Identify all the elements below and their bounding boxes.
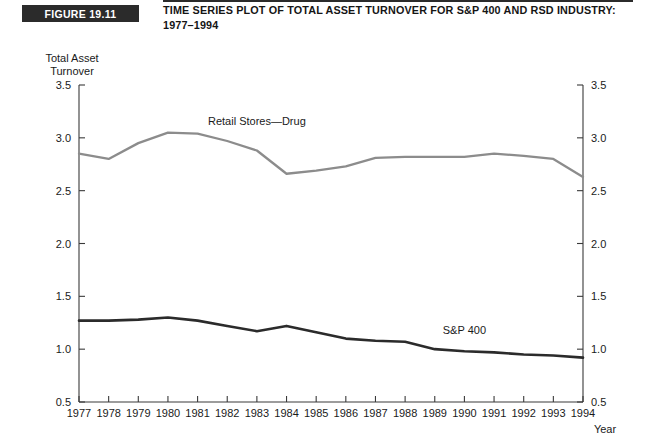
x-tick-label: 1987 [363,407,387,419]
x-tick-label: 1990 [452,407,476,419]
x-tick-label: 1981 [185,407,209,419]
x-tick-label: 1993 [541,407,565,419]
x-tick-label: 1982 [215,407,239,419]
y-tick-label-left: 3.0 [56,132,71,144]
y-tick-label-right: 1.5 [591,290,606,302]
y-axis-title-line1: Total Asset [45,52,98,64]
x-tick-label: 1985 [304,407,328,419]
y-tick-label-right: 2.5 [591,185,606,197]
x-tick-label: 1989 [423,407,447,419]
y-tick-label-left: 2.5 [56,185,71,197]
series-annotation: S&P 400 [443,324,486,336]
series-line-s-p-400 [79,317,583,357]
x-tick-label: 1979 [126,407,150,419]
x-tick-label: 1986 [334,407,358,419]
time-series-plot: 0.50.51.01.01.51.52.02.02.52.53.03.03.53… [0,0,652,438]
y-axis-title-line2: Turnover [50,65,94,77]
x-tick-label: 1983 [245,407,269,419]
x-tick-label: 1984 [274,407,298,419]
x-tick-label: 1977 [67,407,91,419]
y-tick-label-left: 1.0 [56,343,71,355]
x-tick-label: 1991 [482,407,506,419]
y-tick-label-left: 2.0 [56,238,71,250]
series-annotation: Retail Stores—Drug [208,115,306,127]
x-tick-label: 1980 [156,407,180,419]
y-tick-label-right: 2.0 [591,238,606,250]
x-tick-label: 1988 [393,407,417,419]
y-tick-label-left: 3.5 [56,79,71,91]
y-tick-label-right: 1.0 [591,343,606,355]
x-tick-label: 1994 [571,407,595,419]
y-tick-label-right: 3.0 [591,132,606,144]
x-axis-title: Year [594,423,617,435]
x-tick-label: 1992 [511,407,535,419]
y-tick-label-right: 3.5 [591,79,606,91]
y-tick-label-left: 1.5 [56,290,71,302]
x-tick-label: 1978 [96,407,120,419]
series-line-retail-stores-drug [79,133,583,177]
chart-canvas: 0.50.51.01.01.51.52.02.02.52.53.03.03.53… [0,0,652,438]
